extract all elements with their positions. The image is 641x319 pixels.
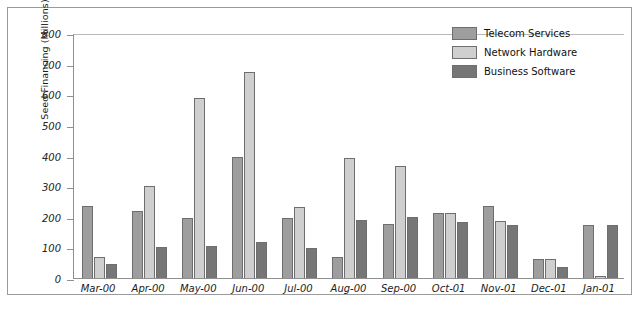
bar xyxy=(607,225,618,278)
bar xyxy=(132,211,143,278)
bar xyxy=(483,206,494,278)
bar xyxy=(507,225,518,278)
bar xyxy=(294,207,305,278)
bar xyxy=(94,257,105,278)
chart-legend: Telecom ServicesNetwork HardwareBusiness… xyxy=(452,27,577,78)
bar xyxy=(407,217,418,278)
bar xyxy=(557,267,568,278)
y-axis-tick-label: 0 xyxy=(55,274,61,285)
bar-group xyxy=(232,35,268,278)
bar xyxy=(533,259,544,278)
bar-group xyxy=(583,35,619,278)
legend-label: Business Software xyxy=(484,66,575,77)
chart-frame: Seed Financing (Millions) 01002003004005… xyxy=(7,7,632,295)
bar xyxy=(344,158,355,278)
y-axis-tick-label: 800 xyxy=(42,29,61,40)
y-axis-tick: 500 xyxy=(67,127,74,128)
bar xyxy=(445,213,456,278)
bar xyxy=(306,248,317,278)
bar xyxy=(194,98,205,278)
bar xyxy=(282,218,293,278)
bar xyxy=(106,264,117,278)
y-axis-tick-label: 200 xyxy=(42,213,61,224)
y-axis-tick: 600 xyxy=(67,96,74,97)
legend-color-swatch xyxy=(452,27,477,40)
bar xyxy=(244,72,255,278)
bar-group xyxy=(132,35,168,278)
bar xyxy=(583,225,594,278)
y-axis-tick: 100 xyxy=(67,249,74,250)
bar xyxy=(332,257,343,278)
y-axis-tick: 300 xyxy=(67,188,74,189)
bar xyxy=(232,157,243,278)
legend-color-swatch xyxy=(452,65,477,78)
bar xyxy=(433,213,444,278)
bar xyxy=(595,276,606,278)
legend-label: Telecom Services xyxy=(484,28,570,39)
y-axis-tick-label: 500 xyxy=(42,121,61,132)
legend-item: Network Hardware xyxy=(452,46,577,59)
bar xyxy=(156,247,167,278)
bar xyxy=(383,224,394,278)
bar xyxy=(356,220,367,278)
bar xyxy=(256,242,267,278)
bar-group xyxy=(383,35,419,278)
y-axis-tick: 200 xyxy=(67,219,74,220)
x-axis-labels: Mar-00Apr-00May-00Jun-00Jul-00Aug-00Sep-… xyxy=(73,281,624,301)
legend-item: Telecom Services xyxy=(452,27,577,40)
y-axis-tick-label: 600 xyxy=(42,90,61,101)
y-axis-tick: 700 xyxy=(67,66,74,67)
bar xyxy=(82,206,93,278)
bar-group xyxy=(182,35,218,278)
bar xyxy=(395,166,406,278)
bar-group xyxy=(282,35,318,278)
legend-label: Network Hardware xyxy=(484,47,577,58)
bar-group xyxy=(332,35,368,278)
bar xyxy=(206,246,217,278)
y-axis-tick-label: 400 xyxy=(42,152,61,163)
y-axis-tick: 800 xyxy=(67,35,74,36)
x-axis-label: Jan-01 xyxy=(569,283,629,294)
y-axis-tick-label: 100 xyxy=(42,243,61,254)
y-axis-tick-label: 700 xyxy=(42,60,61,71)
bar xyxy=(144,186,155,278)
bar xyxy=(495,221,506,278)
bar xyxy=(545,259,556,278)
bar xyxy=(457,222,468,278)
bar-group xyxy=(82,35,118,278)
bar xyxy=(182,218,193,278)
y-axis-tick-label: 300 xyxy=(42,182,61,193)
y-axis-tick: 400 xyxy=(67,158,74,159)
legend-item: Business Software xyxy=(452,65,577,78)
legend-color-swatch xyxy=(452,46,477,59)
